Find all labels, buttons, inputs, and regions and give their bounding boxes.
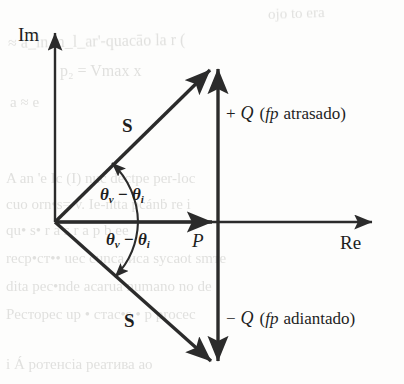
- s-label-upper: S: [122, 116, 133, 135]
- q-negative-paren-open: (: [254, 309, 266, 328]
- p-label: P: [192, 231, 204, 250]
- q-positive-pf: fp: [265, 104, 278, 123]
- theta-v-lower: θv: [106, 230, 120, 249]
- q-negative-condition: adiantado: [279, 309, 350, 328]
- q-positive-label: +Q(fpatrasado): [226, 104, 346, 122]
- angle-label-upper: θv−θi: [100, 186, 144, 203]
- q-negative-paren-close: ): [350, 309, 356, 328]
- theta-v-upper: θv: [100, 185, 114, 204]
- angle-label-lower: θv−θi: [106, 231, 150, 248]
- q-negative-label: −Q(fpadiantado): [226, 309, 355, 327]
- minus-lower: −: [120, 230, 138, 249]
- theta-i-lower: θi: [138, 230, 150, 249]
- s-label-lower: S: [124, 311, 135, 330]
- minus-upper: −: [114, 185, 132, 204]
- real-axis-label: Re: [340, 233, 361, 252]
- q-positive-condition: atrasado: [279, 104, 341, 123]
- q-positive-paren-close: ): [340, 104, 346, 123]
- q-positive-symbol: Q: [236, 103, 254, 123]
- q-negative-sign: −: [226, 309, 236, 328]
- q-negative-pf: fp: [265, 309, 278, 328]
- figure-canvas: ojo to era≈ a_ln m_l_ar'-quacāo la r (p₂…: [0, 0, 404, 384]
- q-negative-symbol: Q: [236, 308, 254, 328]
- imaginary-axis-label: Im: [18, 25, 39, 44]
- q-positive-sign: +: [226, 104, 236, 123]
- theta-i-upper: θi: [132, 185, 144, 204]
- q-positive-paren-open: (: [254, 104, 266, 123]
